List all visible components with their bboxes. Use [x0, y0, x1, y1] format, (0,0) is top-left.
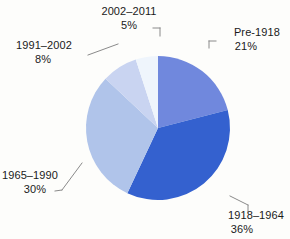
pie-label-1991-2002: 1991–2002 8%: [16, 39, 88, 66]
pie-label-1965-1990: 1965–1990 30%: [2, 169, 78, 196]
pie-label-2002-2011-name: 2002–2011: [95, 5, 163, 19]
pie-label-1965-1990-name: 1965–1990: [2, 169, 78, 183]
pie-chart-figure: Pre-1918 21% 1918–1964 36% 1965–1990 30%…: [0, 0, 290, 239]
pie-label-2002-2011: 2002–2011 5%: [95, 5, 163, 32]
pie-label-pre-1918: Pre-1918 21%: [216, 26, 280, 53]
leader-line-1918-1964: [230, 196, 248, 205]
pie-label-1918-1964: 1918–1964 36%: [206, 209, 284, 236]
leader-line-1991-2002: [88, 44, 118, 55]
pie-label-1991-2002-value: 8%: [16, 53, 88, 67]
pie-label-1991-2002-name: 1991–2002: [16, 39, 88, 53]
pie-label-1918-1964-name: 1918–1964: [206, 209, 284, 223]
pie-label-2002-2011-value: 5%: [95, 19, 163, 33]
pie-label-pre-1918-name: Pre-1918: [216, 26, 280, 40]
pie-slices: [86, 56, 230, 200]
pie-label-1918-1964-value: 36%: [206, 223, 284, 237]
pie-label-1965-1990-value: 30%: [2, 183, 78, 197]
pie-label-pre-1918-value: 21%: [216, 40, 280, 54]
